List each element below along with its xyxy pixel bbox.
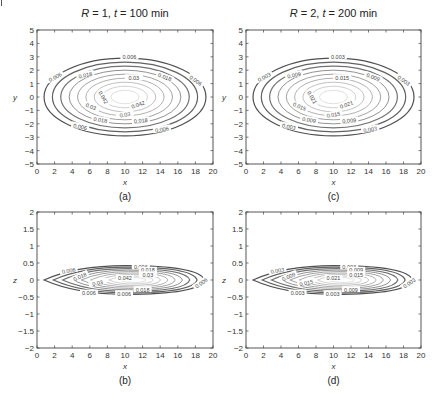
contour-label: 0.03: [128, 75, 139, 81]
x-tick-label: 16: [173, 351, 182, 360]
contour-label: 0.018: [157, 72, 172, 82]
x-tick-label: 6: [88, 167, 93, 176]
y-tick-label: 2: [30, 208, 35, 217]
y-tick-label: −3: [234, 133, 244, 142]
x-tick-label: 4: [70, 167, 75, 176]
x-tick-label: 20: [417, 167, 426, 176]
panel-caption: (b): [119, 375, 131, 386]
panel-b: 0.0060.0060.0060.0060.0060.0180.0180.018…: [12, 208, 218, 386]
contour-label: 0.03: [119, 111, 131, 119]
x-tick-label: 14: [364, 351, 373, 360]
y-tick-label: −3: [25, 133, 35, 142]
contour-label: 0.042: [97, 90, 109, 105]
x-tick-label: 6: [88, 351, 93, 360]
x-axis-label: x: [331, 362, 337, 371]
y-tick-label: 1: [239, 242, 244, 251]
plot-frame: [37, 30, 213, 164]
y-axis-label: y: [221, 93, 227, 102]
panel-c: R = 2, t = 200 min0.0030.0030.0030.0030.…: [221, 7, 426, 202]
contour-label: 0.009: [287, 71, 302, 80]
y-tick-label: 0: [30, 93, 35, 102]
y-tick-label: −1.5: [18, 327, 34, 336]
y-tick-label: −1: [25, 310, 35, 319]
contour-label: 0.018: [134, 117, 148, 124]
y-tick-label: 5: [30, 26, 35, 35]
x-tick-label: 0: [244, 167, 249, 176]
contour-lines: [253, 58, 414, 136]
x-axis-label: x: [122, 178, 128, 187]
x-tick-label: 14: [156, 351, 165, 360]
contour-label: 0.018: [136, 287, 150, 293]
panel-a: R = 1, t = 100 min0.0060.0060.0060.0060.…: [12, 7, 218, 202]
y-axis-label: y: [12, 93, 18, 102]
contour-label: 0.009: [302, 116, 317, 124]
y-tick-label: 2: [239, 66, 244, 75]
x-tick-label: 12: [138, 167, 147, 176]
x-tick-label: 0: [35, 167, 40, 176]
y-tick-label: −0.5: [227, 293, 243, 302]
y-tick-label: 0: [239, 276, 244, 285]
y-tick-label: −5: [234, 160, 244, 169]
y-tick-label: −2: [234, 344, 244, 353]
contour-label: 0.003: [326, 291, 340, 297]
x-axis-label: x: [122, 362, 128, 371]
y-tick-label: 0.5: [232, 259, 244, 268]
y-tick-label: 4: [239, 39, 244, 48]
x-tick-label: 2: [52, 167, 57, 176]
panel-caption: (d): [327, 375, 339, 386]
x-tick-label: 12: [138, 351, 147, 360]
y-tick-label: 4: [30, 39, 35, 48]
x-tick-label: 12: [347, 351, 356, 360]
x-tick-label: 14: [156, 167, 165, 176]
y-tick-label: 1: [30, 242, 35, 251]
y-tick-label: −4: [25, 147, 35, 156]
contour-label: 0.003: [396, 74, 411, 87]
y-tick-label: 1: [30, 80, 35, 89]
contour-label: 0.009: [344, 287, 358, 293]
y-tick-label: −0.5: [18, 293, 34, 302]
contour-label: 0.006: [73, 122, 88, 131]
contour-lines: [44, 58, 206, 136]
panel-d: 0.0030.0030.0030.0030.0030.0090.0090.009…: [221, 208, 426, 386]
x-tick-label: 10: [121, 351, 130, 360]
x-tick-label: 10: [329, 167, 338, 176]
y-axis-label: z: [12, 276, 17, 285]
x-tick-label: 2: [261, 351, 266, 360]
contour-label: 0.003: [331, 54, 345, 60]
x-tick-label: 16: [173, 167, 182, 176]
x-axis-label: x: [331, 178, 337, 187]
y-tick-label: 0: [239, 93, 244, 102]
y-tick-label: 5: [239, 26, 244, 35]
x-tick-label: 16: [382, 351, 391, 360]
x-tick-label: 18: [191, 351, 200, 360]
x-tick-label: 6: [296, 167, 301, 176]
y-tick-label: −5: [25, 160, 35, 169]
x-tick-label: 8: [314, 351, 319, 360]
x-tick-label: 4: [279, 167, 284, 176]
contour-label: 0.021: [327, 275, 341, 281]
x-tick-label: 0: [244, 351, 249, 360]
x-tick-label: 16: [382, 167, 391, 176]
contour-label: 0.006: [123, 54, 137, 60]
panel-title: R = 1, t = 100 min: [81, 7, 168, 19]
contour-label: 0.006: [188, 74, 203, 87]
x-tick-label: 8: [105, 167, 110, 176]
contour-label: 0.015: [326, 110, 341, 118]
contour-label: 0.009: [366, 72, 381, 82]
panel-title: R = 2, t = 200 min: [290, 7, 377, 19]
panel-caption: (c): [328, 191, 340, 202]
y-tick-label: 1: [239, 80, 244, 89]
contour-label: 0.03: [143, 272, 154, 278]
y-tick-label: 3: [239, 53, 244, 62]
x-tick-label: 2: [52, 351, 57, 360]
x-tick-label: 6: [296, 351, 301, 360]
contour-label: 0.015: [335, 75, 349, 81]
contour-label: 0.021: [306, 90, 318, 105]
contour-label: 0.006: [155, 125, 170, 133]
axis-ticks: 02468101214161820−2−1.5−1−0.500.511.52: [227, 208, 426, 360]
y-tick-label: 2: [239, 208, 244, 217]
y-tick-label: −1: [234, 106, 244, 115]
x-tick-label: 10: [121, 167, 130, 176]
x-tick-label: 18: [399, 167, 408, 176]
y-tick-label: −4: [234, 147, 244, 156]
